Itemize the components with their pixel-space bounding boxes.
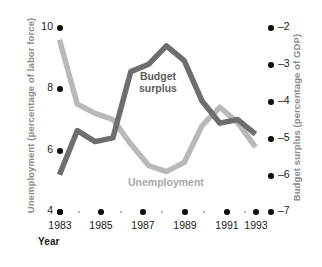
- series-annotation-budget-surplus: Budgetsurplus: [139, 70, 177, 94]
- chart-plot-area: [0, 0, 322, 267]
- chart-container: Unemployment (percentage of labor force)…: [0, 0, 322, 267]
- series-annotation-unemployment: Unemployment: [128, 176, 204, 188]
- series-annotation-budget-surplus-line2: surplus: [139, 82, 177, 94]
- series-line-unemployment: [60, 40, 256, 172]
- series-annotation-budget-surplus-line1: Budget: [139, 70, 177, 82]
